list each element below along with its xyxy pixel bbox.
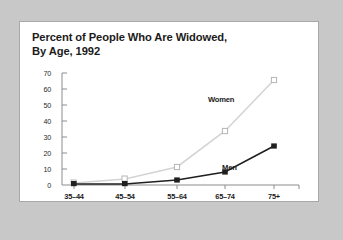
chart-card: Percent of People Who Are Widowed, By Ag…: [19, 21, 319, 202]
y-tick-label-0: 0: [31, 181, 51, 190]
y-tick-label-20: 20: [31, 149, 51, 158]
title-line-1: Percent of People Who Are Widowed,: [32, 31, 227, 43]
y-tick-label-60: 60: [31, 85, 51, 94]
title-line-2: By Age, 1992: [32, 44, 308, 58]
y-tick-label-50: 50: [31, 101, 51, 110]
x-tick-label-65-74: 65–74: [205, 192, 245, 201]
x-tick-label-75-plus: 75+: [254, 192, 294, 201]
series-label-women: Women: [208, 95, 234, 104]
series-label-men: Men: [222, 163, 237, 172]
y-tick-label-30: 30: [31, 133, 51, 142]
x-tick-label-35-44: 35–44: [54, 192, 94, 201]
y-tick-label-40: 40: [31, 117, 51, 126]
page-title: Percent of People Who Are Widowed, By Ag…: [32, 30, 308, 58]
x-tick-label-55-64: 55–64: [157, 192, 197, 201]
y-tick-label-10: 10: [31, 165, 51, 174]
y-tick-label-70: 70: [31, 69, 51, 78]
x-tick-label-45-54: 45–54: [105, 192, 145, 201]
